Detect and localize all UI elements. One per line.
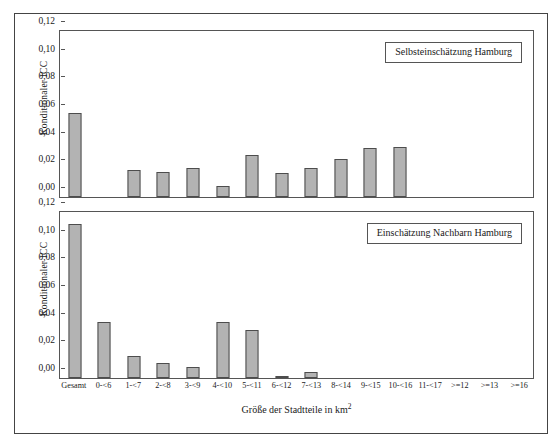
y-tick-label: 0,00 bbox=[15, 363, 60, 373]
x-tick-label: 3-<9 bbox=[185, 381, 201, 390]
bar bbox=[157, 172, 170, 197]
y-tick-mark bbox=[61, 159, 65, 160]
bar-slot bbox=[326, 31, 356, 197]
bar-slot bbox=[60, 31, 90, 197]
y-tick-label: 0,04 bbox=[15, 127, 60, 137]
x-tick-label: 10-<16 bbox=[389, 381, 413, 390]
y-tick-label: 0,04 bbox=[15, 308, 60, 318]
bar-slot bbox=[237, 212, 267, 378]
x-tick-label: Gesamt bbox=[61, 381, 86, 390]
chart-panel-nachbarn: Konditionaler ICC Einschätzung Nachbarn … bbox=[22, 199, 540, 429]
y-tick-mark bbox=[61, 104, 65, 105]
y-tick-mark bbox=[61, 313, 65, 314]
y-tick-label: 0,06 bbox=[15, 99, 60, 109]
y-tick-mark bbox=[61, 76, 65, 77]
bar bbox=[98, 322, 111, 378]
x-axis-tick-labels: Gesamt0-<61-<72-<83-<94-<105-<116-<127-<… bbox=[59, 381, 534, 395]
y-tick-label: 0,12 bbox=[15, 197, 60, 207]
bar bbox=[68, 113, 81, 197]
bar bbox=[216, 322, 229, 378]
figure-root: Konditionaler ICC Selbsteinschätzung Ham… bbox=[0, 0, 560, 447]
bar bbox=[305, 168, 318, 197]
y-tick-label: 0,08 bbox=[15, 252, 60, 262]
y-tick-label: 0,10 bbox=[15, 44, 60, 54]
bar bbox=[68, 224, 81, 378]
bar-slot bbox=[119, 31, 149, 197]
bar bbox=[246, 330, 259, 378]
x-tick-label: 7-<13 bbox=[302, 381, 322, 390]
y-tick-mark bbox=[61, 368, 65, 369]
x-tick-label: >=13 bbox=[481, 381, 498, 390]
x-axis-label-text: Größe der Stadtteile in km2 bbox=[242, 404, 352, 415]
bar-slot bbox=[149, 212, 179, 378]
bar-slot bbox=[178, 31, 208, 197]
bar-slot bbox=[326, 212, 356, 378]
bar-slot bbox=[297, 31, 327, 197]
y-tick-label: 0,06 bbox=[15, 280, 60, 290]
bar bbox=[157, 363, 170, 378]
y-tick-mark bbox=[61, 49, 65, 50]
bar-slot bbox=[297, 212, 327, 378]
bar-slot bbox=[90, 31, 120, 197]
bar-slot bbox=[356, 31, 386, 197]
x-tick-label: 4-<10 bbox=[212, 381, 232, 390]
x-tick-label: 6-<12 bbox=[272, 381, 292, 390]
x-tick-label: >=16 bbox=[510, 381, 527, 390]
bar bbox=[187, 168, 200, 197]
x-axis-label: Größe der Stadtteile in km2 bbox=[59, 402, 534, 415]
x-tick-label: 0-<6 bbox=[96, 381, 112, 390]
x-tick-label: 11-<17 bbox=[418, 381, 441, 390]
y-tick-mark bbox=[61, 187, 65, 188]
bar bbox=[364, 148, 377, 197]
x-tick-label: 1-<7 bbox=[125, 381, 141, 390]
x-tick-label: >=12 bbox=[451, 381, 468, 390]
x-tick-label: 8-<14 bbox=[331, 381, 351, 390]
y-tick-mark bbox=[61, 340, 65, 341]
bar bbox=[305, 372, 318, 378]
bar bbox=[246, 155, 259, 197]
bar bbox=[275, 173, 288, 197]
bar-slot bbox=[267, 31, 297, 197]
bar bbox=[216, 186, 229, 197]
bar bbox=[275, 376, 288, 379]
bar bbox=[393, 147, 406, 197]
bar-slot bbox=[178, 212, 208, 378]
bar bbox=[187, 367, 200, 378]
x-tick-label: 9-<15 bbox=[361, 381, 381, 390]
y-tick-label: 0,12 bbox=[15, 16, 60, 26]
bar-slot bbox=[208, 212, 238, 378]
bar-slot bbox=[90, 212, 120, 378]
y-tick-mark bbox=[61, 202, 65, 203]
y-tick-label: 0,02 bbox=[15, 335, 60, 345]
chart-panel-selbsteinschaetzung: Konditionaler ICC Selbsteinschätzung Ham… bbox=[22, 18, 540, 208]
bar-slot bbox=[208, 31, 238, 197]
bar-slot bbox=[237, 31, 267, 197]
bar-slot bbox=[60, 212, 90, 378]
bar bbox=[127, 356, 140, 378]
plot-area-bottom: Einschätzung Nachbarn Hamburg 0,000,020,… bbox=[59, 211, 534, 379]
plot-area-top: Selbsteinschätzung Hamburg 0,000,020,040… bbox=[59, 30, 534, 198]
bar-slot bbox=[267, 212, 297, 378]
bar bbox=[127, 170, 140, 197]
y-tick-label: 0,10 bbox=[15, 225, 60, 235]
y-tick-mark bbox=[61, 21, 65, 22]
x-tick-label: 5-<11 bbox=[242, 381, 261, 390]
y-tick-label: 0,02 bbox=[15, 154, 60, 164]
y-tick-mark bbox=[61, 257, 65, 258]
y-tick-mark bbox=[61, 285, 65, 286]
bar bbox=[334, 159, 347, 197]
legend-box-top: Selbsteinschätzung Hamburg bbox=[385, 42, 522, 63]
y-tick-mark bbox=[61, 132, 65, 133]
legend-box-bottom: Einschätzung Nachbarn Hamburg bbox=[367, 223, 522, 244]
y-tick-label: 0,08 bbox=[15, 71, 60, 81]
x-tick-label: 2-<8 bbox=[155, 381, 171, 390]
y-tick-mark bbox=[61, 230, 65, 231]
bar-slot bbox=[119, 212, 149, 378]
bar-slot bbox=[149, 31, 179, 197]
y-tick-label: 0,00 bbox=[15, 182, 60, 192]
